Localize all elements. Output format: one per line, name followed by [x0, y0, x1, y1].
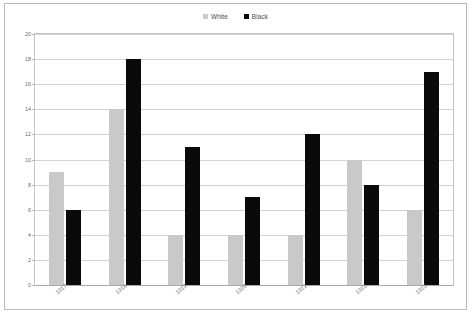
bar-white-1919[interactable]	[168, 235, 183, 285]
x-axis-tick-cell: 1922	[334, 287, 394, 311]
legend-label: Black	[252, 13, 268, 20]
legend-swatch-icon	[203, 14, 208, 19]
plot-area: 20181614121086420	[34, 33, 454, 286]
y-axis-tick-label: 0	[28, 282, 31, 288]
legend-swatch-icon	[244, 14, 249, 19]
y-axis-tick-label: 4	[28, 232, 31, 238]
bars-layer	[35, 34, 453, 285]
bar-group	[35, 34, 95, 285]
bar-black-1923[interactable]	[424, 72, 439, 285]
x-axis-tick-cell: 1920	[214, 287, 274, 311]
y-axis-tick-label: 6	[28, 207, 31, 213]
x-axis-tick-cell: 1921	[274, 287, 334, 311]
bar-black-1921[interactable]	[305, 134, 320, 285]
bar-black-1920[interactable]	[245, 197, 260, 285]
y-axis-tick-label: 18	[25, 56, 31, 62]
bar-white-1917[interactable]	[49, 172, 64, 285]
bar-white-1922[interactable]	[347, 160, 362, 286]
y-axis-tick-label: 10	[25, 157, 31, 163]
bar-group	[334, 34, 394, 285]
bar-white-1920[interactable]	[228, 235, 243, 285]
x-axis-tick-cell: 1923	[394, 287, 454, 311]
y-axis-tick-label: 16	[25, 81, 31, 87]
bar-black-1922[interactable]	[364, 185, 379, 285]
legend-item-white[interactable]: White	[203, 13, 228, 20]
x-axis-tick-cell: 1918	[94, 287, 154, 311]
y-axis-tick-mark	[32, 285, 35, 286]
y-axis-tick-label: 2	[28, 257, 31, 263]
bar-group	[274, 34, 334, 285]
chart-frame: WhiteBlack 20181614121086420 19171918191…	[4, 3, 467, 310]
x-axis-tick-cell: 1917	[34, 287, 94, 311]
x-axis-tick-cell: 1919	[154, 287, 214, 311]
legend-item-black[interactable]: Black	[244, 13, 268, 20]
bar-white-1918[interactable]	[109, 109, 124, 285]
bar-group	[214, 34, 274, 285]
y-axis-tick-label: 20	[25, 31, 31, 37]
caption-strip	[0, 312, 472, 321]
bar-black-1919[interactable]	[185, 147, 200, 285]
bar-white-1921[interactable]	[288, 235, 303, 285]
bar-group	[95, 34, 155, 285]
bar-white-1923[interactable]	[407, 210, 422, 285]
x-axis-tick-labels: 1917191819191920192119221923	[34, 287, 454, 311]
bar-group	[154, 34, 214, 285]
y-axis-tick-label: 14	[25, 106, 31, 112]
legend-label: White	[211, 13, 228, 20]
chart-legend: WhiteBlack	[5, 13, 466, 20]
bar-black-1918[interactable]	[126, 59, 141, 285]
bar-group	[393, 34, 453, 285]
y-axis-tick-label: 8	[28, 182, 31, 188]
bar-black-1917[interactable]	[66, 210, 81, 285]
y-axis-tick-label: 12	[25, 131, 31, 137]
